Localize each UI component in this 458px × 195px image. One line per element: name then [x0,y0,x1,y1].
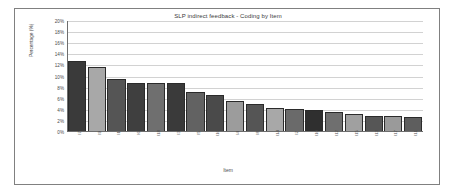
x-tick-slot: I1 [107,132,127,158]
x-tick-slot: I4 [225,132,245,158]
chart-screenshot: SLP indirect feedback - Coding by Item P… [0,0,458,195]
chart-title: SLP indirect feedback - Coding by Item [15,13,441,19]
x-axis-tick-label: I16 [215,130,220,136]
bar[interactable] [226,101,244,132]
bar-slot [285,21,305,132]
bar[interactable] [206,95,224,132]
bar[interactable] [167,83,185,132]
x-tick-slot: I9 [87,132,107,158]
y-axis-tick-label: 6% [57,96,64,101]
bar-slot [384,21,404,132]
x-tick-slot: I18 [146,132,166,158]
y-axis-tick-label: 12% [55,63,64,68]
x-tick-slot: I12 [324,132,344,158]
y-axis-tick-label: 8% [57,85,64,90]
x-axis-tick-label: I12 [334,130,339,136]
y-axis-tick-label: 4% [57,107,64,112]
x-tick-slot: I13 [364,132,384,158]
bar-slot [205,21,225,132]
x-axis-tick-labels: I7I9I1I6I18I3I5I16I4I8I14I2I10I12I15I13I… [67,132,423,158]
x-axis-tick-label: I9 [97,131,102,135]
plot-area: 20%18%16%14%12%10%8%6%4%2%0% [67,21,423,132]
x-axis-tick-label: I13 [374,130,379,136]
x-axis-title: Item [15,167,441,173]
y-axis-line [67,21,68,132]
bar-slot [364,21,384,132]
x-axis-tick-label: I14 [275,130,280,136]
x-tick-slot: I6 [126,132,146,158]
x-axis-tick-label: I1 [116,131,121,135]
bar[interactable] [88,67,106,132]
y-axis-title: Percentage (%) [29,24,34,57]
bar-series [67,21,423,132]
y-axis-tick-label: 10% [55,74,64,79]
bar[interactable] [186,92,204,133]
x-axis-tick-label: I3 [176,131,181,135]
bar-slot [245,21,265,132]
bar-slot [166,21,186,132]
x-tick-slot: I11 [403,132,423,158]
x-tick-slot: I15 [344,132,364,158]
bar[interactable] [107,79,125,132]
x-axis-tick-label: I10 [314,130,319,136]
x-tick-slot: I8 [245,132,265,158]
bar-slot [146,21,166,132]
x-axis-tick-label: I18 [156,130,161,136]
x-tick-slot: I3 [166,132,186,158]
x-axis-tick-label: I8 [255,131,260,135]
bar-slot [67,21,87,132]
x-tick-slot: I16 [205,132,225,158]
y-axis-tick-label: 14% [55,52,64,57]
bar-slot [265,21,285,132]
x-tick-slot: I5 [186,132,206,158]
x-tick-slot: I2 [285,132,305,158]
bar-slot [344,21,364,132]
bar-slot [107,21,127,132]
bar[interactable] [147,83,165,132]
bar-slot [304,21,324,132]
y-axis-tick-label: 16% [55,41,64,46]
y-axis-tick-label: 0% [57,130,64,135]
x-axis-tick-label: I11 [413,130,418,136]
bar[interactable] [68,61,86,132]
x-axis-tick-label: I2 [294,131,299,135]
bar-slot [403,21,423,132]
bar-slot [324,21,344,132]
chart-frame: SLP indirect feedback - Coding by Item P… [14,8,440,185]
x-tick-slot: I10 [304,132,324,158]
x-tick-slot: I14 [265,132,285,158]
bar[interactable] [305,110,323,132]
bar[interactable] [266,108,284,132]
bar-slot [186,21,206,132]
y-axis-tick-label: 20% [55,19,64,24]
bar-slot [126,21,146,132]
y-axis-tick-label: 2% [57,118,64,123]
x-axis-tick-label: I4 [235,131,240,135]
x-axis-tick-label: I17 [393,130,398,136]
y-axis-tick-label: 18% [55,30,64,35]
bar[interactable] [285,109,303,132]
x-axis-tick-label: I7 [77,131,82,135]
x-axis-tick-label: I15 [354,130,359,136]
bar[interactable] [246,104,264,132]
bar[interactable] [127,83,145,132]
bar-slot [87,21,107,132]
x-axis-tick-label: I5 [196,131,201,135]
x-axis-tick-label: I6 [136,131,141,135]
x-tick-slot: I17 [384,132,404,158]
bar-slot [225,21,245,132]
x-tick-slot: I7 [67,132,87,158]
